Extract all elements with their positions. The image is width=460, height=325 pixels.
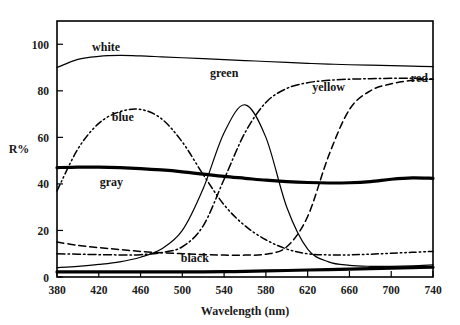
x-tick-label-580: 580: [257, 284, 275, 296]
curve-white: [57, 55, 433, 67]
y-axis-title: R%: [9, 142, 30, 156]
y-tick-label-0: 0: [43, 272, 49, 284]
curve-label-red: red: [411, 71, 428, 85]
y-tick-label-100: 100: [32, 39, 50, 51]
curve-black: [57, 267, 433, 272]
curve-label-blue: blue: [112, 110, 135, 124]
y-tick-label-20: 20: [38, 225, 50, 237]
curve-label-gray: gray: [100, 175, 123, 189]
x-tick-label-420: 420: [90, 284, 108, 296]
x-tick-label-740: 740: [424, 284, 442, 296]
spectral-reflectance-chart: 3804204605005405806206607007400204060801…: [0, 0, 460, 325]
chart-canvas: 3804204605005405806206607007400204060801…: [0, 0, 460, 325]
curve-label-white: white: [92, 40, 121, 54]
curve-label-black: black: [181, 251, 209, 265]
plot-frame: [57, 21, 433, 277]
curve-label-yellow: yellow: [312, 80, 345, 94]
x-tick-label-460: 460: [132, 284, 150, 296]
x-tick-label-700: 700: [383, 284, 401, 296]
x-tick-label-620: 620: [299, 284, 317, 296]
x-tick-label-500: 500: [174, 284, 192, 296]
y-tick-label-80: 80: [38, 85, 50, 97]
curve-label-green: green: [210, 66, 239, 80]
y-tick-label-60: 60: [38, 132, 50, 144]
x-axis-title: Wavelength (nm): [201, 304, 289, 318]
x-tick-label-540: 540: [215, 284, 233, 296]
y-tick-label-40: 40: [38, 178, 50, 190]
x-tick-label-660: 660: [341, 284, 359, 296]
x-tick-label-380: 380: [48, 284, 66, 296]
